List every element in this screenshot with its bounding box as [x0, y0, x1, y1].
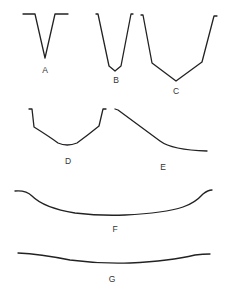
profile-e-label: E: [160, 162, 166, 172]
profile-b-label: B: [113, 75, 119, 85]
profile-b: B: [96, 14, 133, 85]
profile-f-label: F: [112, 224, 117, 234]
profile-c: C: [141, 15, 217, 96]
profile-e: E: [115, 109, 207, 172]
profile-d-line: [29, 109, 106, 145]
profile-a: A: [23, 14, 68, 75]
profile-d: D: [29, 109, 106, 166]
profile-c-label: C: [173, 86, 179, 96]
profile-b-line: [96, 14, 133, 71]
profile-a-line: [23, 14, 68, 58]
profile-f: F: [15, 190, 212, 234]
profile-g-line: [18, 253, 210, 263]
profile-d-label: D: [65, 156, 71, 166]
profile-c-line: [141, 15, 217, 81]
profile-a-label: A: [42, 65, 48, 75]
profile-g-label: G: [109, 274, 116, 284]
profile-f-line: [15, 190, 212, 215]
profile-g: G: [18, 253, 210, 284]
profiles-diagram: A B C D E F G: [0, 0, 231, 290]
profile-e-line: [115, 109, 207, 151]
